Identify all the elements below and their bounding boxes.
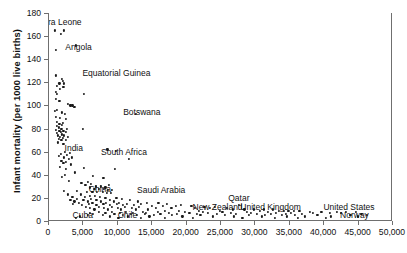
data-point: [60, 153, 62, 155]
data-point: [80, 193, 82, 195]
data-point: [55, 97, 57, 99]
data-point: [126, 203, 128, 205]
data-point: [290, 212, 292, 214]
data-point: [316, 214, 318, 216]
y-axis-tick-label: 40: [31, 170, 41, 180]
data-point: [72, 203, 74, 205]
data-point: [57, 141, 59, 143]
point-annotation: Cuba: [73, 210, 93, 220]
data-point: [329, 212, 331, 214]
data-point: [256, 213, 258, 215]
x-axis-tick-label: 5,000: [72, 227, 94, 237]
data-point: [312, 212, 314, 214]
data-point: [164, 216, 166, 218]
x-axis-tick-label: 15,000: [138, 227, 164, 237]
data-point: [330, 215, 332, 217]
data-point: [275, 212, 277, 214]
infant-mortality-scatter-chart: Infant mortality (per 1000 live births) …: [0, 0, 407, 253]
data-point: [83, 167, 85, 169]
x-axis-tick: [323, 221, 324, 225]
data-point: [150, 205, 152, 207]
data-point: [171, 214, 173, 216]
data-point: [84, 184, 86, 186]
data-point: [94, 194, 96, 196]
data-point: [102, 214, 104, 216]
x-axis-tick-label: 30,000: [241, 227, 267, 237]
data-point: [76, 190, 78, 192]
data-point: [58, 82, 60, 84]
data-point: [66, 154, 68, 156]
point-annotation: China: [89, 184, 111, 194]
y-axis-tick-label: 100: [27, 100, 41, 110]
data-point: [89, 207, 91, 209]
data-point: [280, 214, 282, 216]
data-point: [128, 158, 130, 160]
data-point: [113, 200, 115, 202]
data-point: [61, 124, 63, 126]
data-point: [146, 201, 148, 203]
data-point: [130, 207, 132, 209]
data-point: [73, 106, 75, 108]
data-point: [196, 213, 198, 215]
data-point: [139, 216, 141, 218]
data-point: [104, 212, 106, 214]
x-axis-tick: [289, 221, 290, 225]
y-axis-tick-label: 0: [36, 216, 41, 226]
x-axis-tick: [358, 221, 359, 225]
data-point: [82, 127, 84, 129]
data-point: [148, 215, 150, 217]
data-point: [102, 203, 104, 205]
data-point: [230, 212, 232, 214]
data-point: [212, 215, 214, 217]
data-point: [233, 215, 235, 217]
data-point: [166, 203, 168, 205]
data-point: [81, 204, 83, 206]
data-point: [92, 175, 94, 177]
data-point: [115, 197, 117, 199]
data-point: [176, 213, 178, 215]
y-axis-tick-label: 80: [31, 124, 41, 134]
data-point: [324, 216, 326, 218]
data-point: [116, 203, 118, 205]
data-point-layer: Sierra LeoneAngolaEquatorial GuineaBotsw…: [49, 13, 391, 220]
plot-area: Sierra LeoneAngolaEquatorial GuineaBotsw…: [48, 13, 392, 221]
data-point: [68, 158, 70, 160]
data-point: [80, 182, 82, 184]
data-point: [64, 131, 66, 133]
data-point: [152, 214, 154, 216]
data-point: [83, 93, 85, 95]
data-point: [180, 204, 182, 206]
data-point: [90, 198, 92, 200]
x-axis: 05,00010,00015,00020,00025,00030,00035,0…: [48, 221, 393, 249]
data-point: [129, 199, 131, 201]
data-point: [63, 82, 65, 84]
data-point: [62, 162, 64, 164]
data-point: [63, 190, 65, 192]
data-point: [107, 208, 109, 210]
point-annotation: Norway: [340, 210, 369, 220]
data-point: [56, 93, 58, 95]
data-point: [174, 205, 176, 207]
data-point: [121, 198, 123, 200]
data-point: [88, 203, 90, 205]
data-point: [124, 206, 126, 208]
x-axis-tick: [220, 221, 221, 225]
data-point: [114, 168, 116, 170]
x-axis-tick: [186, 221, 187, 225]
data-point: [155, 207, 157, 209]
data-point: [55, 85, 57, 87]
data-point: [103, 207, 105, 209]
y-axis: 020406080100120140160180: [0, 13, 48, 221]
data-point: [75, 198, 77, 200]
data-point: [207, 212, 209, 214]
y-axis-tick-label: 180: [27, 8, 41, 18]
data-point: [260, 215, 262, 217]
data-point: [65, 118, 67, 120]
data-point: [157, 201, 159, 203]
data-point: [241, 216, 243, 218]
x-axis-tick-label: 45,000: [344, 227, 370, 237]
data-point: [216, 213, 218, 215]
data-point: [67, 136, 69, 138]
data-point: [199, 214, 201, 216]
data-point: [111, 189, 113, 191]
